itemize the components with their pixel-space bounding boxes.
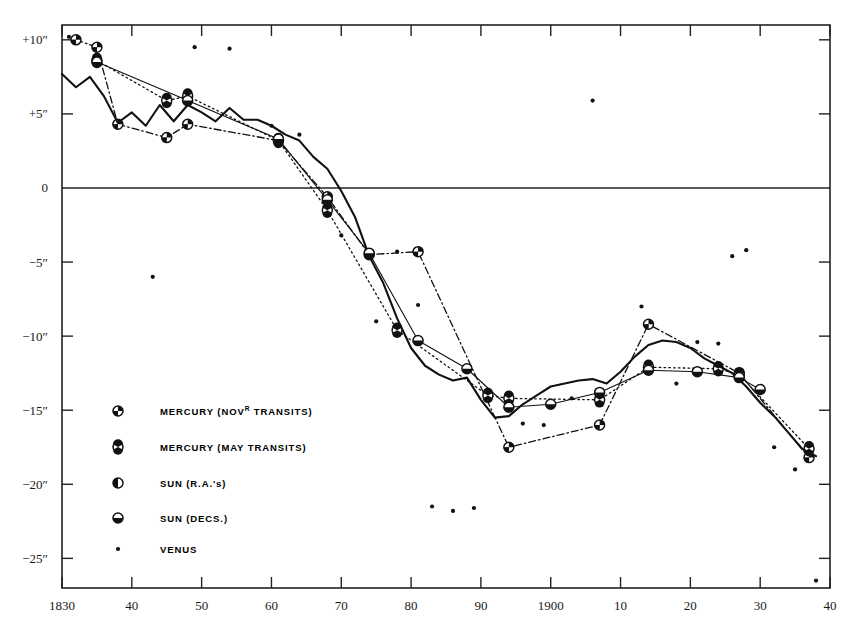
data-point-small-dot bbox=[521, 421, 525, 425]
legend-label-main: MERCURY (NOV bbox=[160, 406, 245, 417]
x-axis-tick-label: 40 bbox=[125, 598, 138, 613]
data-point-small-dot bbox=[639, 304, 643, 308]
data-point-half-bottom-circle bbox=[113, 513, 123, 523]
data-point-half-bottom-circle bbox=[734, 373, 744, 383]
data-point-quartered-circle bbox=[595, 420, 605, 430]
small-dot-icon bbox=[695, 340, 699, 344]
data-point-bowtie-circle bbox=[113, 439, 123, 455]
data-point-small-dot bbox=[67, 35, 71, 39]
x-axis-tick-label: 90 bbox=[474, 598, 487, 613]
y-axis-tick-label: +10″ bbox=[22, 32, 48, 47]
data-point-bowtie-circle bbox=[483, 388, 493, 404]
chart-background bbox=[0, 0, 859, 634]
x-axis-tick-label: 70 bbox=[335, 598, 348, 613]
data-point-small-dot bbox=[716, 341, 720, 345]
legend-label: VENUS bbox=[160, 544, 197, 555]
data-point-small-dot bbox=[772, 445, 776, 449]
y-axis-tick-label: +5″ bbox=[29, 106, 48, 121]
data-point-small-dot bbox=[227, 47, 231, 51]
small-dot-icon bbox=[591, 98, 595, 102]
legend-label: MERCURY (NOVR TRANSITS) bbox=[160, 405, 313, 417]
y-axis-tick-label: −10″ bbox=[22, 329, 48, 344]
data-point-small-dot bbox=[730, 254, 734, 258]
small-dot-icon bbox=[542, 423, 546, 427]
small-dot-icon bbox=[395, 250, 399, 254]
x-axis-tick-label: 1830 bbox=[49, 598, 75, 613]
data-point-half-bottom-circle bbox=[273, 134, 283, 144]
data-point-half-bottom-circle bbox=[364, 248, 374, 258]
data-point-quartered-circle bbox=[504, 442, 514, 452]
y-axis-tick-label: −25″ bbox=[22, 551, 48, 566]
data-point-quartered-circle bbox=[183, 119, 193, 129]
data-point-half-bottom-circle bbox=[504, 402, 514, 412]
data-point-half-bottom-circle bbox=[183, 96, 193, 106]
residuals-chart: +10″+5″0−5″−10″−15″−20″−25″ 183040506070… bbox=[0, 0, 859, 634]
small-dot-icon bbox=[570, 396, 574, 400]
data-point-small-dot bbox=[591, 98, 595, 102]
data-point-small-dot bbox=[472, 506, 476, 510]
y-axis-tick-label: −5″ bbox=[29, 255, 48, 270]
data-point-small-dot bbox=[374, 319, 378, 323]
small-dot-icon bbox=[639, 304, 643, 308]
data-point-small-dot bbox=[151, 275, 155, 279]
legend-label-tail: TRANSITS) bbox=[250, 406, 312, 417]
legend-label-main: SUN (R.A.'s) bbox=[160, 478, 226, 489]
data-point-small-dot bbox=[416, 303, 420, 307]
small-dot-icon bbox=[814, 578, 818, 582]
small-dot-icon bbox=[193, 45, 197, 49]
data-point-half-bottom-circle bbox=[755, 384, 765, 394]
x-axis-tick-label: 80 bbox=[405, 598, 418, 613]
data-point-small-dot bbox=[695, 340, 699, 344]
small-dot-icon bbox=[374, 319, 378, 323]
small-dot-icon bbox=[793, 467, 797, 471]
small-dot-icon bbox=[674, 381, 678, 385]
small-dot-icon bbox=[339, 233, 343, 237]
data-point-small-dot bbox=[116, 547, 120, 551]
data-point-small-dot bbox=[451, 509, 455, 513]
small-dot-icon bbox=[151, 275, 155, 279]
data-point-half-bottom-circle bbox=[322, 195, 332, 205]
chart-container: +10″+5″0−5″−10″−15″−20″−25″ 183040506070… bbox=[0, 0, 859, 634]
legend-label: SUN (DECS.) bbox=[160, 513, 228, 524]
data-point-small-dot bbox=[542, 423, 546, 427]
small-dot-icon bbox=[67, 35, 71, 39]
data-point-small-dot bbox=[395, 250, 399, 254]
data-point-quartered-circle bbox=[71, 35, 81, 45]
data-point-quartered-circle bbox=[643, 319, 653, 329]
data-point-half-bottom-circle bbox=[462, 364, 472, 374]
data-point-small-dot bbox=[430, 504, 434, 508]
data-point-quartered-circle bbox=[162, 133, 172, 143]
small-dot-icon bbox=[297, 133, 301, 137]
data-point-half-bottom-circle bbox=[692, 367, 702, 377]
small-dot-icon bbox=[472, 506, 476, 510]
data-point-small-dot bbox=[339, 233, 343, 237]
data-point-quartered-circle bbox=[92, 42, 102, 52]
data-point-small-dot bbox=[674, 381, 678, 385]
x-axis-tick-label: 1900 bbox=[538, 598, 564, 613]
data-point-small-dot bbox=[814, 578, 818, 582]
small-dot-icon bbox=[772, 445, 776, 449]
small-dot-icon bbox=[451, 509, 455, 513]
x-axis-tick-label: 60 bbox=[265, 598, 278, 613]
data-point-half-bottom-circle bbox=[92, 57, 102, 67]
data-point-bowtie-circle bbox=[162, 93, 172, 109]
x-axis-tick-label: 50 bbox=[195, 598, 208, 613]
x-axis-tick-label: 40 bbox=[824, 598, 837, 613]
legend-label: SUN (R.A.'s) bbox=[160, 478, 226, 489]
small-dot-icon bbox=[227, 47, 231, 51]
legend-label-main: MERCURY (MAY TRANSITS) bbox=[160, 442, 306, 453]
small-dot-icon bbox=[716, 341, 720, 345]
data-point-quartered-circle bbox=[113, 406, 123, 416]
data-point-quartered-circle bbox=[413, 247, 423, 257]
y-axis-tick-label: −15″ bbox=[22, 403, 48, 418]
x-axis-tick-label: 30 bbox=[754, 598, 767, 613]
data-point-small-dot bbox=[793, 467, 797, 471]
data-point-small-dot bbox=[269, 124, 273, 128]
small-dot-icon bbox=[416, 303, 420, 307]
y-axis-tick-label: −20″ bbox=[22, 477, 48, 492]
legend-label: MERCURY (MAY TRANSITS) bbox=[160, 442, 306, 453]
data-point-half-bottom-circle bbox=[546, 399, 556, 409]
small-dot-icon bbox=[730, 254, 734, 258]
legend-label-main: SUN (DECS.) bbox=[160, 513, 228, 524]
small-dot-icon bbox=[430, 504, 434, 508]
